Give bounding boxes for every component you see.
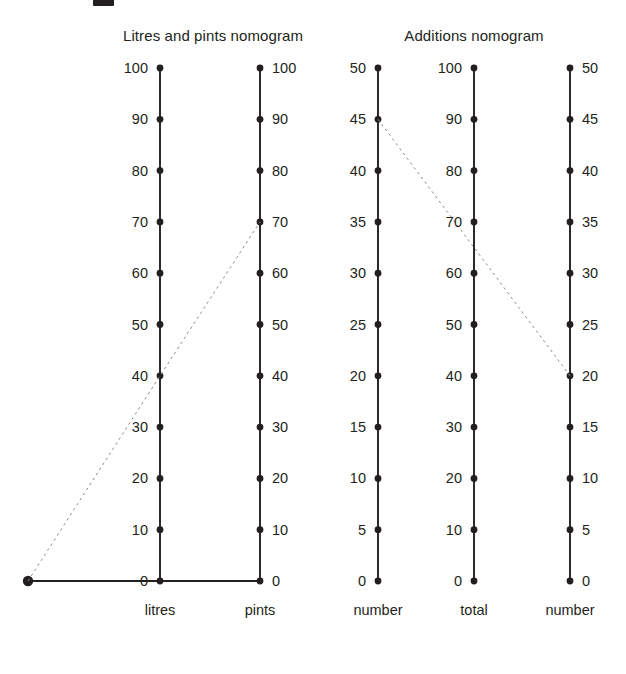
tick-label-number-right-20: 20 bbox=[582, 369, 598, 384]
tick-label-number-right-10: 10 bbox=[582, 471, 598, 486]
tick-dot-pints-80 bbox=[257, 167, 264, 174]
tick-dot-total-40 bbox=[471, 372, 478, 379]
tick-label-number-left-45: 45 bbox=[350, 112, 366, 127]
tick-dot-pints-40 bbox=[257, 372, 264, 379]
axis-caption-pints: pints bbox=[245, 603, 276, 618]
tick-dot-pints-50 bbox=[257, 321, 264, 328]
tick-dot-number-left-35 bbox=[375, 219, 382, 226]
tick-dot-pints-30 bbox=[257, 424, 264, 431]
tick-label-pints-70: 70 bbox=[272, 215, 288, 230]
tick-label-pints-20: 20 bbox=[272, 471, 288, 486]
tick-dot-litres-20 bbox=[157, 475, 164, 482]
tick-dot-number-left-25 bbox=[375, 321, 382, 328]
tick-label-pints-40: 40 bbox=[272, 369, 288, 384]
tick-label-total-40: 40 bbox=[446, 369, 462, 384]
tick-label-total-100: 100 bbox=[438, 61, 462, 76]
tick-label-number-left-5: 5 bbox=[358, 522, 366, 537]
tick-label-litres-60: 60 bbox=[132, 266, 148, 281]
tick-label-litres-20: 20 bbox=[132, 471, 148, 486]
tick-label-number-left-25: 25 bbox=[350, 317, 366, 332]
tick-dot-litres-10 bbox=[157, 526, 164, 533]
tick-dot-litres-30 bbox=[157, 424, 164, 431]
tick-label-number-left-10: 10 bbox=[350, 471, 366, 486]
tick-label-litres-80: 80 bbox=[132, 163, 148, 178]
tick-dot-litres-60 bbox=[157, 270, 164, 277]
tick-label-number-left-15: 15 bbox=[350, 420, 366, 435]
tick-label-total-0: 0 bbox=[454, 574, 462, 589]
tick-dot-number-right-25 bbox=[567, 321, 574, 328]
tick-label-number-left-30: 30 bbox=[350, 266, 366, 281]
axis-caption-litres: litres bbox=[145, 603, 176, 618]
nomogram-figure: Litres and pints nomogram Additions nomo… bbox=[0, 0, 626, 674]
tick-label-number-left-0: 0 bbox=[358, 574, 366, 589]
tick-dot-pints-20 bbox=[257, 475, 264, 482]
tick-label-pints-80: 80 bbox=[272, 163, 288, 178]
tick-dot-litres-100 bbox=[157, 65, 164, 72]
tick-label-number-left-35: 35 bbox=[350, 215, 366, 230]
tick-label-litres-40: 40 bbox=[132, 369, 148, 384]
tick-label-pints-50: 50 bbox=[272, 317, 288, 332]
tick-dot-litres-50 bbox=[157, 321, 164, 328]
tick-dot-number-right-35 bbox=[567, 219, 574, 226]
tick-dot-number-left-20 bbox=[375, 372, 382, 379]
tick-dot-number-left-30 bbox=[375, 270, 382, 277]
tick-dot-pints-60 bbox=[257, 270, 264, 277]
tick-dot-number-right-10 bbox=[567, 475, 574, 482]
tick-label-total-90: 90 bbox=[446, 112, 462, 127]
tick-dot-pints-10 bbox=[257, 526, 264, 533]
tick-dot-total-0 bbox=[471, 578, 478, 585]
tick-dot-litres-70 bbox=[157, 219, 164, 226]
tick-dot-total-50 bbox=[471, 321, 478, 328]
tick-label-number-right-40: 40 bbox=[582, 163, 598, 178]
tick-dot-pints-100 bbox=[257, 65, 264, 72]
tick-dot-total-70 bbox=[471, 219, 478, 226]
tick-label-litres-50: 50 bbox=[132, 317, 148, 332]
tick-label-pints-60: 60 bbox=[272, 266, 288, 281]
nomogram-canvas bbox=[0, 0, 626, 674]
tick-label-total-10: 10 bbox=[446, 522, 462, 537]
tick-label-number-right-50: 50 bbox=[582, 61, 598, 76]
tick-dot-number-left-15 bbox=[375, 424, 382, 431]
tick-label-litres-10: 10 bbox=[132, 522, 148, 537]
tick-dot-total-80 bbox=[471, 167, 478, 174]
axis-caption-number-left: number bbox=[353, 603, 402, 618]
axis-caption-number-right: number bbox=[545, 603, 594, 618]
tick-dot-number-right-5 bbox=[567, 526, 574, 533]
tick-label-litres-90: 90 bbox=[132, 112, 148, 127]
tick-label-total-70: 70 bbox=[446, 215, 462, 230]
tick-dot-number-right-40 bbox=[567, 167, 574, 174]
tick-label-number-right-25: 25 bbox=[582, 317, 598, 332]
tick-label-number-right-0: 0 bbox=[582, 574, 590, 589]
nomogram-title-additions: Additions nomogram bbox=[404, 28, 543, 43]
tick-label-number-left-20: 20 bbox=[350, 369, 366, 384]
tick-label-number-right-30: 30 bbox=[582, 266, 598, 281]
tick-label-total-20: 20 bbox=[446, 471, 462, 486]
tick-dot-number-left-10 bbox=[375, 475, 382, 482]
axis-caption-total: total bbox=[460, 603, 487, 618]
tick-label-pints-0: 0 bbox=[272, 574, 280, 589]
nomogram-title-litres-pints: Litres and pints nomogram bbox=[123, 28, 303, 43]
tick-dot-litres-80 bbox=[157, 167, 164, 174]
tick-dot-number-left-40 bbox=[375, 167, 382, 174]
tick-label-pints-90: 90 bbox=[272, 112, 288, 127]
pivot-dot-litres-pints bbox=[23, 576, 33, 586]
tick-label-litres-100: 100 bbox=[124, 61, 148, 76]
tick-label-total-60: 60 bbox=[446, 266, 462, 281]
tick-dot-total-30 bbox=[471, 424, 478, 431]
tick-dot-total-100 bbox=[471, 65, 478, 72]
tick-dot-total-10 bbox=[471, 526, 478, 533]
tick-label-number-right-45: 45 bbox=[582, 112, 598, 127]
tick-dot-litres-90 bbox=[157, 116, 164, 123]
tick-label-pints-100: 100 bbox=[272, 61, 296, 76]
tick-dot-number-left-5 bbox=[375, 526, 382, 533]
tick-label-total-80: 80 bbox=[446, 163, 462, 178]
tick-label-number-right-5: 5 bbox=[582, 522, 590, 537]
tick-label-number-right-15: 15 bbox=[582, 420, 598, 435]
tick-dot-total-90 bbox=[471, 116, 478, 123]
tick-label-number-left-50: 50 bbox=[350, 61, 366, 76]
tick-label-total-50: 50 bbox=[446, 317, 462, 332]
tick-dot-number-right-0 bbox=[567, 578, 574, 585]
tick-dot-total-20 bbox=[471, 475, 478, 482]
tick-dot-litres-40 bbox=[157, 372, 164, 379]
tick-dot-number-left-0 bbox=[375, 578, 382, 585]
